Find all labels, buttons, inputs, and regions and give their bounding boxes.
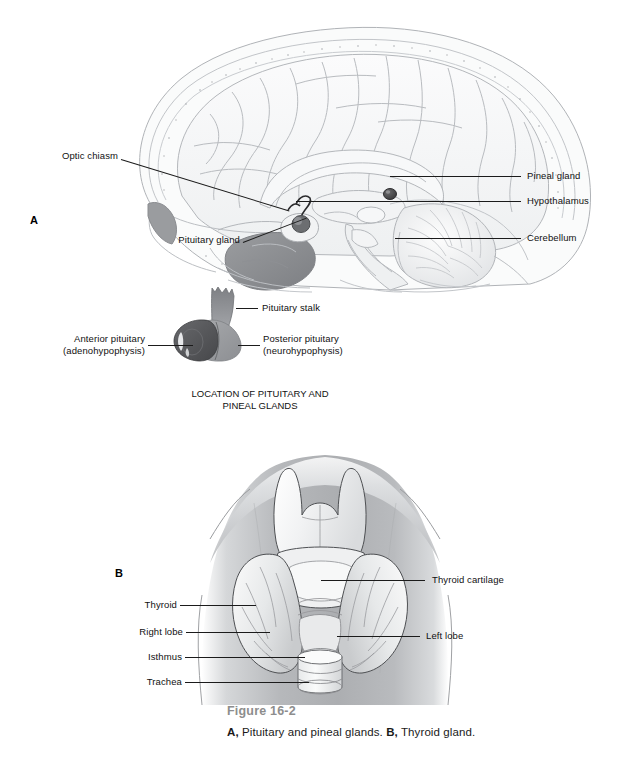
label-cerebellum: Cerebellum [527, 232, 577, 244]
figure-caption: A, Pituitary and pineal glands. B, Thyro… [227, 726, 475, 738]
leader-hypothalamus [296, 201, 521, 202]
label-thyroid: Thyroid [0, 599, 177, 611]
leader-left-lobe [337, 636, 420, 637]
label-trachea: Trachea [0, 676, 182, 688]
leader-trachea [185, 682, 309, 683]
leader-thyroid [180, 605, 256, 606]
caption-b-marker: B, [386, 726, 398, 738]
caption-b-text: Thyroid gland. [398, 726, 475, 738]
label-isthmus: Isthmus [0, 651, 182, 663]
panel-a-section-title-line1: LOCATION OF PITUITARY AND [110, 388, 410, 400]
leader-thyroid-cartilage [321, 580, 425, 581]
pituitary-inset-illustration [160, 286, 280, 366]
label-thyroid-cartilage: Thyroid cartilage [432, 574, 504, 586]
leader-isthmus [185, 657, 305, 658]
label-anterior-pituitary-line2: (adenohypophysis) [0, 345, 145, 357]
panel-letter-a: A [30, 214, 38, 226]
label-right-lobe: Right lobe [0, 626, 183, 638]
label-pituitary-stalk: Pituitary stalk [262, 302, 320, 314]
leader-pituitary-stalk [236, 308, 258, 309]
leader-anterior-pituitary [148, 345, 193, 346]
leader-posterior-pituitary [238, 345, 260, 346]
leader-cerebellum [395, 238, 521, 239]
caption-a-text: Pituitary and pineal glands. [239, 726, 386, 738]
panel-a-sagittal-head-illustration [90, 18, 620, 293]
panel-a-section-title-line2: PINEAL GLANDS [110, 400, 410, 412]
caption-a-marker: A, [227, 726, 239, 738]
label-pineal-gland: Pineal gland [527, 170, 581, 182]
label-pituitary-gland: Pituitary gland [0, 234, 240, 246]
label-optic-chiasm: Optic chiasm [0, 150, 118, 162]
label-left-lobe: Left lobe [426, 630, 463, 642]
panel-letter-b: B [115, 567, 123, 579]
leader-pineal-gland [390, 176, 521, 177]
label-posterior-pituitary-line1: Posterior pituitary [263, 333, 339, 345]
leader-right-lobe [186, 632, 270, 633]
label-anterior-pituitary-line1: Anterior pituitary [0, 333, 145, 345]
label-hypothalamus: Hypothalamus [527, 195, 589, 207]
figure-16-2: Optic chiasm Pituitary gland Pineal glan… [0, 0, 636, 762]
label-posterior-pituitary-line2: (neurohypophysis) [263, 345, 343, 357]
figure-number: Figure 16-2 [227, 704, 296, 718]
